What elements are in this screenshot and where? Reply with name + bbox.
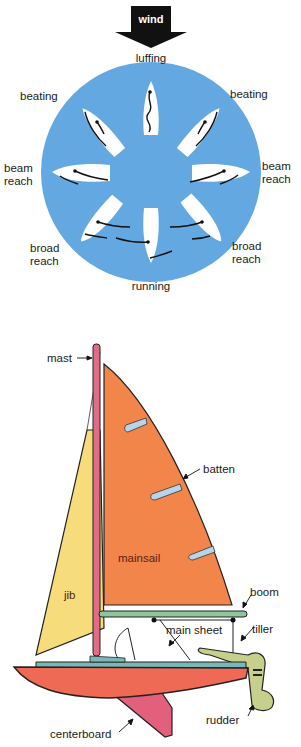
mainsail	[104, 364, 232, 605]
label-batten: batten	[203, 463, 235, 476]
label-rudder: rudder	[206, 714, 239, 727]
mast	[93, 344, 100, 656]
label-tiller: tiller	[252, 623, 273, 636]
label-mainsail: mainsail	[118, 552, 160, 564]
label-boom: boom	[250, 586, 279, 599]
label-centerboard: centerboard	[50, 728, 111, 741]
label-jib: jib	[64, 589, 76, 601]
label-mast: mast	[47, 352, 72, 365]
label-main-sheet: main sheet	[166, 624, 222, 637]
boom	[99, 611, 247, 617]
hull	[14, 667, 248, 698]
